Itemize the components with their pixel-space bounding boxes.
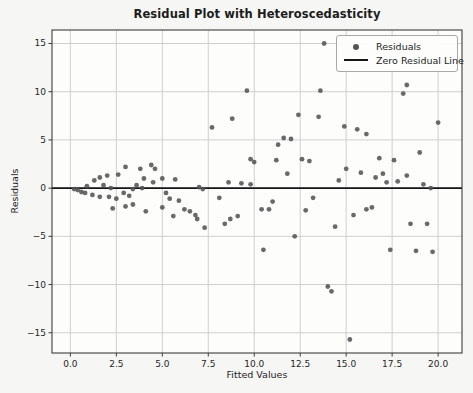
data-point bbox=[325, 284, 330, 289]
data-point bbox=[188, 209, 193, 214]
data-point bbox=[364, 132, 369, 137]
data-point bbox=[131, 202, 136, 207]
data-point bbox=[182, 207, 187, 212]
data-point bbox=[303, 208, 308, 213]
data-point bbox=[322, 41, 327, 46]
data-point bbox=[259, 207, 264, 212]
data-point bbox=[123, 204, 128, 209]
y-tick-label: −10 bbox=[27, 280, 46, 290]
data-point bbox=[83, 191, 88, 196]
legend-label-zero-line: Zero Residual Line bbox=[376, 56, 464, 66]
data-point bbox=[404, 173, 409, 178]
data-point bbox=[296, 112, 301, 117]
data-point bbox=[428, 186, 433, 191]
x-tick-label: 5.0 bbox=[155, 359, 170, 369]
data-point bbox=[151, 180, 156, 185]
data-point bbox=[228, 217, 233, 222]
data-point bbox=[417, 150, 422, 155]
data-point bbox=[222, 221, 227, 226]
x-tick-label: 17.5 bbox=[382, 359, 402, 369]
data-point bbox=[90, 193, 95, 198]
chart-title: Residual Plot with Heteroscedasticity bbox=[52, 7, 462, 21]
data-point bbox=[138, 166, 143, 171]
data-point bbox=[281, 136, 286, 141]
data-point bbox=[270, 199, 275, 204]
data-point bbox=[333, 224, 338, 229]
y-tick-label: −15 bbox=[27, 328, 46, 338]
line-marker-icon bbox=[344, 59, 368, 61]
data-point bbox=[355, 127, 360, 132]
data-point bbox=[230, 116, 235, 121]
data-point bbox=[140, 186, 145, 191]
data-point bbox=[316, 114, 321, 119]
data-point bbox=[160, 205, 165, 210]
data-point bbox=[92, 178, 97, 183]
data-point bbox=[123, 165, 128, 170]
data-point bbox=[289, 137, 294, 142]
data-point bbox=[307, 159, 312, 164]
x-tick-label: 12.5 bbox=[290, 359, 310, 369]
data-point bbox=[235, 214, 240, 219]
data-point bbox=[105, 173, 110, 178]
data-point bbox=[134, 183, 139, 188]
data-point bbox=[245, 88, 250, 93]
data-point bbox=[285, 171, 290, 176]
data-point bbox=[121, 191, 126, 196]
data-point bbox=[274, 158, 279, 163]
data-point bbox=[373, 175, 378, 180]
data-point bbox=[239, 181, 244, 186]
data-point bbox=[276, 142, 281, 147]
data-point bbox=[217, 195, 222, 200]
x-tick-label: 7.5 bbox=[201, 359, 215, 369]
data-point bbox=[342, 124, 347, 129]
data-point bbox=[200, 187, 205, 192]
plot-area bbox=[52, 30, 462, 353]
data-point bbox=[248, 182, 253, 187]
data-point bbox=[436, 120, 441, 125]
y-axis-label: Residuals bbox=[9, 168, 20, 213]
data-point bbox=[226, 180, 231, 185]
data-point bbox=[97, 194, 102, 199]
data-point bbox=[127, 193, 132, 198]
data-point bbox=[359, 170, 364, 175]
data-point bbox=[85, 184, 90, 189]
data-point bbox=[142, 176, 147, 181]
data-point bbox=[388, 247, 393, 252]
data-point bbox=[267, 207, 272, 212]
x-tick-label: 10.0 bbox=[244, 359, 264, 369]
data-point bbox=[173, 177, 178, 182]
y-tick-label: −5 bbox=[33, 231, 46, 241]
x-tick-label: 20.0 bbox=[428, 359, 448, 369]
data-point bbox=[392, 158, 397, 163]
data-point bbox=[351, 213, 356, 218]
data-point bbox=[97, 175, 102, 180]
legend: Residuals Zero Residual Line bbox=[336, 35, 458, 72]
data-point bbox=[116, 172, 121, 177]
data-point bbox=[414, 248, 419, 253]
data-point bbox=[195, 217, 200, 222]
data-point bbox=[384, 180, 389, 185]
data-point bbox=[329, 289, 334, 294]
data-point bbox=[131, 187, 136, 192]
data-point bbox=[377, 156, 382, 161]
figure: 0.02.55.07.510.012.515.017.520.0−15−10−5… bbox=[0, 0, 473, 393]
x-tick-label: 15.0 bbox=[336, 359, 356, 369]
x-tick-label: 0.0 bbox=[63, 359, 78, 369]
legend-item-residuals: Residuals bbox=[344, 42, 450, 52]
data-point bbox=[292, 234, 297, 239]
data-point bbox=[167, 196, 172, 201]
legend-label-residuals: Residuals bbox=[376, 42, 421, 52]
data-point bbox=[114, 196, 119, 201]
data-point bbox=[347, 337, 352, 342]
data-point bbox=[101, 183, 106, 188]
data-point bbox=[408, 221, 413, 226]
data-point bbox=[164, 191, 169, 196]
data-point bbox=[171, 214, 176, 219]
data-point bbox=[110, 206, 115, 211]
x-tick-label: 2.5 bbox=[109, 359, 123, 369]
data-point bbox=[153, 166, 158, 171]
data-point bbox=[160, 176, 165, 181]
data-point bbox=[108, 186, 113, 191]
data-point bbox=[425, 221, 430, 226]
scatter-dot-marker-icon bbox=[353, 44, 359, 50]
